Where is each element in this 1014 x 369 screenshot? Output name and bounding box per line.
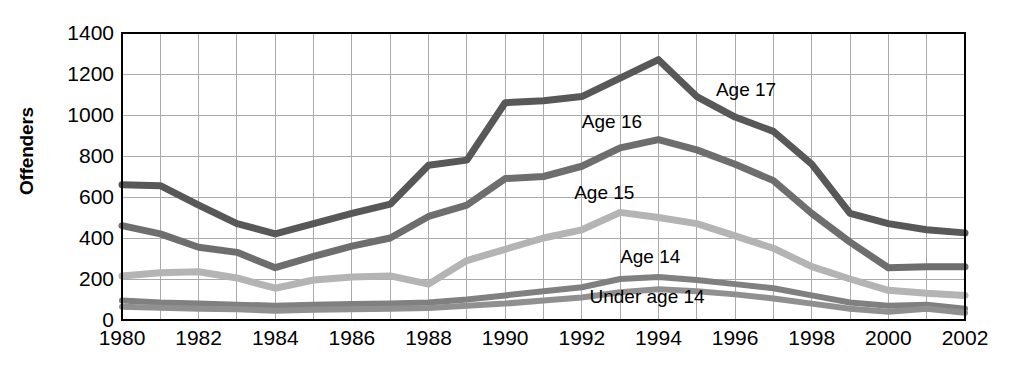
- plot-area: [0, 0, 1014, 369]
- series-annotation-age-17: Age 17: [716, 80, 776, 99]
- series-annotation-under-age-14: Under age 14: [589, 287, 704, 306]
- y-axis-title: Offenders: [16, 86, 38, 216]
- x-tick-label: 1988: [389, 327, 469, 348]
- series-annotation-age-16: Age 16: [582, 112, 642, 131]
- x-tick-label: 2000: [848, 327, 928, 348]
- x-tick-label: 1980: [82, 327, 162, 348]
- y-tick-label: 600: [54, 186, 114, 207]
- x-tick-label: 1986: [312, 327, 392, 348]
- y-tick-label: 400: [54, 227, 114, 248]
- x-tick-label: 2002: [925, 327, 1005, 348]
- chart-container: Offenders 0200400600800100012001400 1980…: [0, 0, 1014, 369]
- x-tick-label: 1996: [695, 327, 775, 348]
- x-tick-label: 1992: [542, 327, 622, 348]
- x-tick-label: 1998: [772, 327, 852, 348]
- y-tick-label: 1200: [54, 63, 114, 84]
- x-tick-label: 1990: [465, 327, 545, 348]
- x-tick-label: 1984: [235, 327, 315, 348]
- x-tick-label: 1982: [159, 327, 239, 348]
- series-annotation-age-14: Age 14: [620, 247, 680, 266]
- x-axis-tick-labels: 1980198219841986198819901992199419961998…: [0, 327, 1014, 361]
- y-tick-label: 800: [54, 145, 114, 166]
- y-axis-tick-labels: 0200400600800100012001400: [52, 0, 114, 369]
- y-tick-label: 1400: [54, 22, 114, 43]
- y-tick-label: 200: [54, 268, 114, 289]
- series-annotation-age-15: Age 15: [574, 183, 634, 202]
- x-tick-label: 1994: [618, 327, 698, 348]
- y-tick-label: 1000: [54, 104, 114, 125]
